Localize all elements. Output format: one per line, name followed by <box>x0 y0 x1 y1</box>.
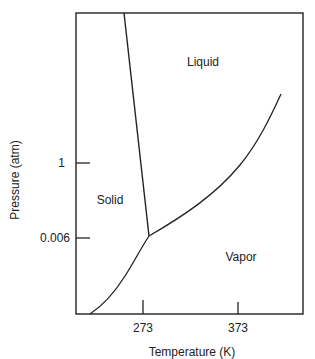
phase-diagram: 1 0.006 273 373 Solid Liquid Vapor Tempe… <box>0 0 315 359</box>
x-tick-label-373: 373 <box>228 321 248 335</box>
y-tick-label-0006: 0.006 <box>40 231 70 245</box>
region-label-solid: Solid <box>97 193 124 207</box>
x-tick-label-273: 273 <box>133 321 153 335</box>
region-label-vapor: Vapor <box>225 250 256 264</box>
x-axis-title: Temperature (K) <box>149 345 236 359</box>
vaporization-curve <box>149 94 281 236</box>
y-tick-label-1: 1 <box>58 156 65 170</box>
y-axis-title: Pressure (atm) <box>8 140 22 219</box>
fusion-curve <box>124 13 149 236</box>
sublimation-curve <box>90 236 149 314</box>
region-label-liquid: Liquid <box>187 55 219 69</box>
